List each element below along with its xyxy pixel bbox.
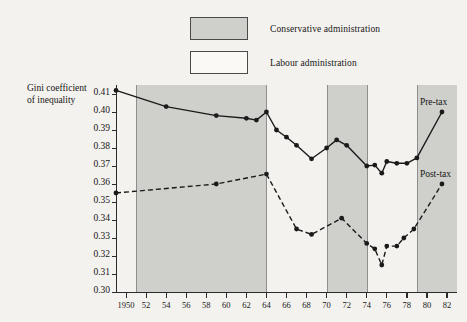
x-axis-tick [266, 293, 267, 298]
data-point [214, 113, 219, 118]
data-point [372, 246, 377, 251]
legend-label-labour: Labour administration [270, 58, 357, 68]
y-axis-tick-label: 0.31 [78, 267, 110, 277]
x-axis-tick [426, 293, 427, 298]
series-layer [116, 85, 457, 292]
x-axis-tick [346, 293, 347, 298]
data-point [401, 236, 406, 241]
data-point [114, 191, 119, 196]
data-point [404, 161, 409, 166]
series-line-pre-tax [116, 90, 442, 173]
series-line-post-tax [116, 174, 442, 265]
data-point [334, 138, 339, 143]
data-point [394, 161, 399, 166]
y-axis-tick-label: 0.37 [78, 159, 110, 169]
y-axis-tick-label: 0.30 [78, 285, 110, 295]
data-point [339, 216, 344, 221]
x-axis-tick [186, 293, 187, 298]
data-point [264, 110, 269, 115]
data-point [114, 88, 119, 93]
data-point [411, 227, 416, 232]
data-point [254, 118, 259, 123]
x-axis-tick [446, 293, 447, 298]
y-axis-tick-label: 0.33 [78, 231, 110, 241]
x-axis-tick [206, 293, 207, 298]
x-axis-tick [166, 293, 167, 298]
data-point [309, 156, 314, 161]
data-point [414, 156, 419, 161]
x-axis-tick-label: 82 [433, 300, 461, 310]
x-axis-tick [386, 293, 387, 298]
x-axis-tick [146, 293, 147, 298]
y-axis-tick-label: 0.35 [78, 195, 110, 205]
data-point [364, 164, 369, 169]
y-axis-tick-label: 0.39 [78, 123, 110, 133]
legend-swatch-conservative [190, 17, 248, 40]
data-point [344, 143, 349, 148]
data-point [372, 163, 377, 168]
data-point [214, 182, 219, 187]
x-axis-tick [286, 293, 287, 298]
x-axis-tick [226, 293, 227, 298]
data-point [384, 159, 389, 164]
x-axis-tick [366, 293, 367, 298]
plot-area: 0.300.310.320.330.340.350.360.370.380.39… [116, 85, 457, 292]
y-axis-tick-label: 0.38 [78, 141, 110, 151]
data-point [394, 244, 399, 249]
x-axis-tick [306, 293, 307, 298]
legend-item-labour: Labour administration [190, 51, 357, 74]
data-point [309, 232, 314, 237]
y-axis-tick-label: 0.36 [78, 177, 110, 187]
data-point [364, 241, 369, 246]
legend-swatch-labour [190, 51, 248, 74]
data-point [440, 182, 445, 187]
data-point [164, 104, 169, 109]
x-axis-tick [326, 293, 327, 298]
data-point [324, 146, 329, 151]
data-point [379, 171, 384, 176]
series-annotation-pre-tax: Pre-tax [420, 97, 447, 107]
data-point [274, 128, 279, 133]
x-axis-tick [246, 293, 247, 298]
data-point [384, 244, 389, 249]
data-point [264, 172, 269, 177]
y-axis-tick-label: 0.41 [78, 87, 110, 97]
data-point [440, 110, 445, 115]
y-axis-tick-label: 0.40 [78, 105, 110, 115]
y-axis-tick-label: 0.34 [78, 213, 110, 223]
data-point [294, 227, 299, 232]
legend-item-conservative: Conservative administration [190, 17, 380, 40]
x-axis-tick [126, 293, 127, 298]
data-point [284, 135, 289, 140]
legend-label-conservative: Conservative administration [270, 24, 380, 34]
data-point [244, 116, 249, 121]
y-axis-tick-label: 0.32 [78, 249, 110, 259]
data-point [294, 143, 299, 148]
series-annotation-post-tax: Post-tax [420, 169, 451, 179]
data-point [379, 263, 384, 268]
x-axis-tick [406, 293, 407, 298]
chart-figure: Conservative administration Labour admin… [0, 0, 467, 322]
